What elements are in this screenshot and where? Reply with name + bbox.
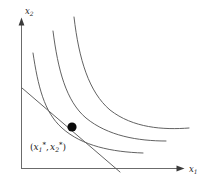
economics-diagram: (x1*,x2*) x1 x2 (0, 0, 202, 193)
svg-text:(x1*,x2*): (x1*,x2*) (30, 141, 66, 154)
optimum-point-dot (67, 122, 76, 131)
x-axis-label: x1 (189, 164, 198, 175)
figure-container: (x1*,x2*) x1 x2 (0, 0, 202, 193)
indifference-curve-low (33, 53, 143, 153)
x-axis-arrow-icon (177, 166, 185, 172)
svg-text:x2: x2 (25, 6, 34, 17)
label-close-paren: ) (63, 142, 67, 152)
svg-text:x1: x1 (189, 164, 198, 175)
y-axis-label-subscript: 2 (29, 10, 34, 17)
optimum-point-label: (x1*,x2*) (30, 141, 66, 154)
y-axis-label: x2 (25, 6, 34, 17)
label-comma: , (46, 142, 49, 152)
y-axis-arrow-icon (19, 18, 25, 26)
indifference-curve-high (74, 17, 189, 129)
x-axis-label-subscript: 1 (194, 168, 198, 175)
